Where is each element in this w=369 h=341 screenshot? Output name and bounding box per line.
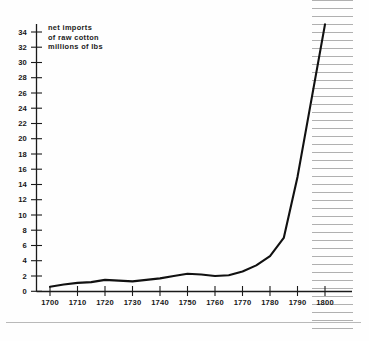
y-tick-label-20: 20 bbox=[5, 134, 27, 143]
chart-title-block: net imports of raw cotton millions of lb… bbox=[48, 23, 103, 52]
chart-title-line-2: of raw cotton bbox=[48, 33, 103, 43]
y-tick-label-14: 14 bbox=[5, 180, 27, 189]
y-tick-label-34: 34 bbox=[5, 28, 27, 37]
y-tick-label-0: 0 bbox=[5, 287, 27, 296]
y-tick-label-22: 22 bbox=[5, 119, 27, 128]
chart-title-line-3: millions of lbs bbox=[48, 42, 103, 52]
chart-page: net imports of raw cotton millions of lb… bbox=[0, 0, 369, 341]
y-tick-label-24: 24 bbox=[5, 104, 27, 113]
y-tick-label-10: 10 bbox=[5, 211, 27, 220]
y-tick-label-30: 30 bbox=[5, 58, 27, 67]
y-tick-label-18: 18 bbox=[5, 150, 27, 159]
x-tick-label-1800: 1800 bbox=[308, 298, 342, 307]
y-tick-label-2: 2 bbox=[5, 272, 27, 281]
y-tick-label-12: 12 bbox=[5, 195, 27, 204]
y-tick-label-8: 8 bbox=[5, 226, 27, 235]
y-tick-label-6: 6 bbox=[5, 241, 27, 250]
y-tick-label-28: 28 bbox=[5, 73, 27, 82]
y-tick-label-4: 4 bbox=[5, 256, 27, 265]
y-tick-label-32: 32 bbox=[5, 43, 27, 52]
y-tick-label-16: 16 bbox=[5, 165, 27, 174]
chart-title-line-1: net imports bbox=[48, 23, 103, 33]
y-tick-label-26: 26 bbox=[5, 89, 27, 98]
data-series-line bbox=[50, 24, 325, 286]
